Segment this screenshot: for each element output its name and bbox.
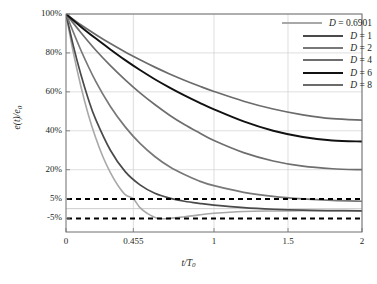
legend-item[interactable]: D = 6 bbox=[264, 67, 372, 79]
legend-color-swatch bbox=[282, 22, 322, 24]
legend-equals: = bbox=[336, 18, 346, 28]
y-tick-label: 20% bbox=[24, 165, 62, 174]
x-tick-label: 1 bbox=[190, 236, 238, 246]
legend-item-label: D = 8 bbox=[350, 80, 372, 90]
y-tick-label: 80% bbox=[24, 48, 62, 57]
chart-figure: e(t)/e0 100% 80% 60% 40% 20% 5% -5% 0 0.… bbox=[0, 0, 377, 284]
legend-equals: = bbox=[357, 31, 367, 41]
y-tick-label: 60% bbox=[24, 87, 62, 96]
y-tick-label: 40% bbox=[24, 126, 62, 135]
legend-item-label: D = 6 bbox=[350, 68, 372, 78]
legend-equals: = bbox=[357, 80, 367, 90]
legend-value: 0.6901 bbox=[346, 18, 372, 28]
legend-item-label: D = 0.6901 bbox=[329, 18, 372, 28]
legend-item[interactable]: D = 2 bbox=[264, 42, 372, 54]
legend-symbol: D bbox=[329, 18, 336, 28]
legend-color-swatch bbox=[303, 47, 343, 49]
legend-color-swatch bbox=[303, 35, 343, 37]
legend-equals: = bbox=[357, 43, 367, 53]
legend-item-label: D = 1 bbox=[350, 31, 372, 41]
legend-equals: = bbox=[357, 68, 367, 78]
legend-value: 8 bbox=[367, 80, 372, 90]
x-axis-title-subscript: 0 bbox=[192, 261, 196, 269]
legend-value: 1 bbox=[367, 31, 372, 41]
y-tick-label: 5% bbox=[24, 194, 62, 203]
legend-item[interactable]: D = 8 bbox=[264, 79, 372, 91]
legend-color-swatch bbox=[303, 84, 343, 86]
legend-item-label: D = 4 bbox=[350, 55, 372, 65]
x-tick-label: 0.455 bbox=[109, 236, 157, 246]
legend-color-swatch bbox=[303, 72, 343, 74]
legend-item[interactable]: D = 1 bbox=[264, 29, 372, 41]
legend-equals: = bbox=[357, 55, 367, 65]
legend-value: 6 bbox=[367, 68, 372, 78]
y-tick-label: -5% bbox=[24, 213, 62, 222]
legend-item[interactable]: D = 0.6901 bbox=[264, 17, 372, 29]
x-tick-label: 1.5 bbox=[264, 236, 312, 246]
x-axis-title-numerator: t bbox=[181, 258, 184, 268]
x-tick-label: 0 bbox=[42, 236, 90, 246]
x-tick-label: 2 bbox=[338, 236, 377, 246]
chart-legend: D = 0.6901 D = 1 D = 2 D = 4 D = 6 bbox=[262, 14, 374, 93]
legend-color-swatch bbox=[303, 59, 343, 61]
legend-value: 2 bbox=[367, 43, 372, 53]
legend-item[interactable]: D = 4 bbox=[264, 54, 372, 66]
legend-item-label: D = 2 bbox=[350, 43, 372, 53]
x-axis-title: t/T0 bbox=[0, 258, 377, 269]
legend-value: 4 bbox=[367, 55, 372, 65]
y-tick-label: 100% bbox=[24, 9, 62, 18]
